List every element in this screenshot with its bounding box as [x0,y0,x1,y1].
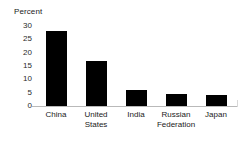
bar-slot [156,22,196,106]
bar[interactable] [126,90,147,106]
category-label: China [36,110,76,130]
plot-right-edge [237,100,238,107]
x-axis-category-labels: ChinaUnited StatesIndiaRussian Federatio… [36,110,236,130]
bar[interactable] [86,61,107,106]
bar[interactable] [166,94,187,106]
y-tick-label: 25 [0,35,32,43]
y-tick-label: 10 [0,75,32,83]
category-label: United States [76,110,116,130]
category-label: Japan [196,110,236,130]
bar-slot [116,22,156,106]
y-tick-label: 15 [0,62,32,70]
bars-container [36,22,236,106]
y-tick-label: 0 [0,102,32,110]
category-label: India [116,110,156,130]
bar-chart-figure: Percent 051015202530 ChinaUnited StatesI… [0,0,242,146]
x-axis-baseline [32,106,238,107]
y-tick-label: 20 [0,49,32,57]
y-tick-label: 30 [0,22,32,30]
y-axis-tick-labels: 051015202530 [0,22,32,106]
bar[interactable] [206,95,227,106]
bar-slot [196,22,236,106]
y-tick-label: 5 [0,89,32,97]
category-label: Russian Federation [156,110,196,130]
y-axis-title: Percent [14,7,42,16]
bar[interactable] [46,31,67,106]
bar-slot [36,22,76,106]
bar-slot [76,22,116,106]
